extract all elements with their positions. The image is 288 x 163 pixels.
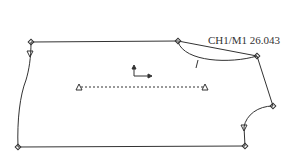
pattern-canvas (0, 0, 288, 163)
pattern-outline[interactable] (18, 41, 273, 147)
notch-markers (27, 51, 247, 131)
direction-arrow-icon (132, 65, 152, 78)
corner-markers (15, 38, 276, 150)
piece-label: CH1/M1 26.043 (208, 34, 280, 46)
dart-notch (196, 60, 198, 68)
